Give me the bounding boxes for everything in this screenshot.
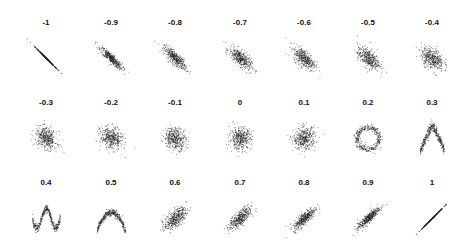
panel-title: 0.6 [143,178,207,188]
panel-title: -0.4 [400,18,464,28]
scatter-plot [407,110,457,166]
scatter-panel: 0.2 [336,98,400,178]
scatter-panel: 0.1 [272,98,336,178]
scatter-plot [150,110,200,166]
panel-title: 0.2 [336,98,400,108]
scatter-plot [215,110,265,166]
scatter-plot [343,110,393,166]
scatter-panel: -0.3 [14,98,78,178]
scatter-panel: -0.8 [143,18,207,98]
scatter-panel: -0.5 [336,18,400,98]
scatter-plot [150,190,200,246]
scatter-panel: 0.5 [79,178,143,252]
panel-title: 0.8 [272,178,336,188]
scatter-plot [86,190,136,246]
scatter-plot [86,30,136,86]
panel-title: -0.6 [272,18,336,28]
scatter-panel: 0.8 [272,178,336,252]
scatter-plot [21,30,71,86]
scatter-plot [343,30,393,86]
panel-title: -0.7 [208,18,272,28]
scatter-panel: 0.6 [143,178,207,252]
panel-title: 0 [208,98,272,108]
panel-title: -1 [14,18,78,28]
scatter-plot [343,190,393,246]
scatter-panel: -0.2 [79,98,143,178]
panel-title: 0.5 [79,178,143,188]
scatter-panel: -0.1 [143,98,207,178]
scatter-panel: 0.3 [400,98,464,178]
scatter-grid: -1-0.9-0.8-0.7-0.6-0.5-0.4-0.3-0.2-0.100… [0,0,472,252]
scatter-panel: 0 [208,98,272,178]
scatter-plot [279,110,329,166]
panel-title: -0.8 [143,18,207,28]
panel-title: -0.1 [143,98,207,108]
panel-title: 1 [400,178,464,188]
scatter-plot [279,30,329,86]
scatter-panel: 1 [400,178,464,252]
scatter-plot [279,190,329,246]
panel-title: 0.9 [336,178,400,188]
scatter-panel: 0.9 [336,178,400,252]
scatter-panel: 0.7 [208,178,272,252]
scatter-panel: -0.4 [400,18,464,98]
panel-title: -0.9 [79,18,143,28]
scatter-panel: -0.7 [208,18,272,98]
panel-title: 0.3 [400,98,464,108]
scatter-panel: -0.6 [272,18,336,98]
scatter-plot [407,30,457,86]
panel-title: 0.1 [272,98,336,108]
scatter-plot [86,110,136,166]
panel-title: -0.5 [336,18,400,28]
panel-title: 0.7 [208,178,272,188]
scatter-plot [215,190,265,246]
scatter-plot [150,30,200,86]
scatter-plot [407,190,457,246]
scatter-plot [21,190,71,246]
panel-title: 0.4 [14,178,78,188]
scatter-plot [21,110,71,166]
panel-title: -0.3 [14,98,78,108]
scatter-plot [215,30,265,86]
scatter-panel: -1 [14,18,78,98]
panel-title: -0.2 [79,98,143,108]
scatter-panel: -0.9 [79,18,143,98]
scatter-panel: 0.4 [14,178,78,252]
